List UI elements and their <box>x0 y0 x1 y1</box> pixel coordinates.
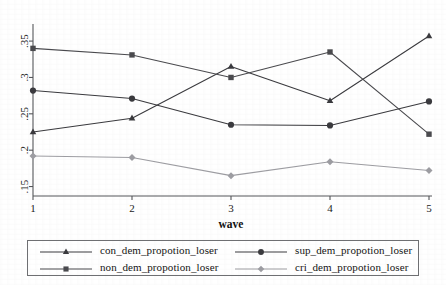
data-point-square <box>327 49 332 54</box>
diamond-marker <box>258 265 265 272</box>
x-tick-label: 4 <box>327 202 333 214</box>
data-point-circle <box>426 98 432 104</box>
y-tick-label: .3 <box>18 73 30 82</box>
legend-marker-diamond <box>233 261 289 273</box>
x-axis-title: wave <box>219 218 244 230</box>
triangle-marker <box>228 63 235 69</box>
series-triangle <box>30 32 433 134</box>
y-tick-label: .2 <box>18 146 30 154</box>
legend-item: cri_dem_propotion_loser <box>223 261 418 273</box>
data-point-square <box>228 75 233 80</box>
square-marker <box>30 46 35 51</box>
chart-legend: con_dem_propotion_losersup_dem_propotion… <box>27 240 419 276</box>
square-marker <box>426 131 431 136</box>
diamond-marker <box>228 172 235 179</box>
diamond-marker <box>30 153 37 160</box>
x-tick-label: 2 <box>129 202 135 214</box>
x-tick-label: 1 <box>30 202 36 214</box>
data-point-diamond <box>426 167 433 174</box>
y-tick-label: .25 <box>18 106 30 120</box>
square-marker <box>129 52 134 57</box>
series-diamond <box>30 153 433 180</box>
legend-item: sup_dem_propotion_loser <box>223 244 418 256</box>
series-line <box>33 48 429 134</box>
series-circle <box>30 87 432 128</box>
legend-label: sup_dem_propotion_loser <box>289 244 412 256</box>
circle-marker <box>426 98 432 104</box>
data-point-circle <box>30 87 36 93</box>
legend-item: con_dem_propotion_loser <box>28 244 223 256</box>
data-point-circle <box>327 122 333 128</box>
data-point-triangle <box>63 248 69 254</box>
triangle-marker <box>63 248 69 254</box>
data-point-diamond <box>327 158 334 165</box>
x-tick-label: 3 <box>228 202 234 214</box>
circle-marker <box>30 87 36 93</box>
legend-label: con_dem_propotion_loser <box>94 244 218 256</box>
diamond-marker <box>327 158 334 165</box>
data-point-diamond <box>228 172 235 179</box>
data-point-square <box>30 46 35 51</box>
y-tick-label: .35 <box>18 34 30 48</box>
legend-marker-circle <box>233 244 289 256</box>
square-marker <box>63 266 68 271</box>
triangle-marker <box>426 32 433 38</box>
data-point-diamond <box>30 153 37 160</box>
square-marker <box>228 75 233 80</box>
data-point-square <box>63 266 68 271</box>
data-point-circle <box>228 122 234 128</box>
data-point-triangle <box>426 32 433 38</box>
diamond-marker <box>426 167 433 174</box>
series-line <box>33 36 429 132</box>
legend-label: cri_dem_propotion_loser <box>289 261 409 273</box>
data-point-diamond <box>129 154 136 161</box>
legend-label: non_dem_propotion_loser <box>94 261 218 273</box>
data-point-square <box>129 52 134 57</box>
data-point-circle <box>129 95 135 101</box>
chart-container: .15.2.25.3.3512345wave con_dem_propotion… <box>0 0 446 285</box>
data-point-square <box>426 131 431 136</box>
legend-item: non_dem_propotion_loser <box>28 261 223 273</box>
diamond-marker <box>129 154 136 161</box>
x-tick-label: 5 <box>426 202 432 214</box>
series-line <box>33 91 429 126</box>
data-point-diamond <box>258 265 265 272</box>
circle-marker <box>327 122 333 128</box>
circle-marker <box>228 122 234 128</box>
circle-marker <box>258 249 264 255</box>
data-point-circle <box>258 249 264 255</box>
legend-marker-square <box>38 261 94 273</box>
legend-marker-triangle <box>38 244 94 256</box>
square-marker <box>327 49 332 54</box>
circle-marker <box>129 95 135 101</box>
y-tick-label: .15 <box>18 179 30 193</box>
data-point-triangle <box>228 63 235 69</box>
